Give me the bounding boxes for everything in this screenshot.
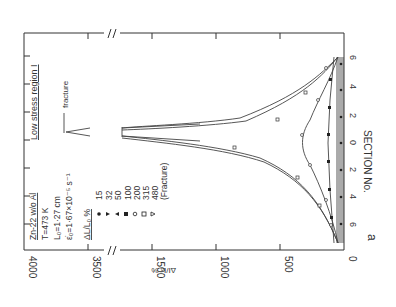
- legend: ΔL/L₀ % 15 32 50 100 200 315 480 (F: [82, 163, 169, 240]
- chart: 4000 3500 1500 1000 500 0 ΔI/I₀ % 6 4 2 …: [0, 0, 396, 307]
- axis-break-bottom: [108, 246, 116, 255]
- gauge-length: L₀=1·27 cm: [52, 196, 62, 240]
- legend-header: ΔL/L₀ %: [82, 209, 92, 240]
- chart-title: Low stress region I: [29, 64, 39, 140]
- section-tick: 2: [348, 167, 358, 172]
- value-axis-label: ΔI/I₀ %: [151, 266, 176, 275]
- legend-label: 15: [94, 190, 104, 200]
- section-tick: 4: [348, 194, 358, 199]
- section-tick: 4: [348, 84, 358, 89]
- series-480-315: [122, 57, 338, 243]
- section-tick: 6: [348, 222, 358, 227]
- series-15-32-50: [337, 57, 343, 243]
- tick-4000: 4000: [27, 256, 38, 279]
- value-tick-labels: 4000 3500 1500 1000 500 0: [27, 256, 358, 279]
- alloy: Zn-22 w/o Al: [28, 193, 38, 240]
- tick-0: 0: [347, 256, 358, 262]
- section-tick: 2: [348, 113, 358, 118]
- section-tick: 6: [348, 55, 358, 60]
- legend-entry-15: 15: [94, 190, 104, 216]
- tick-1000: 1000: [219, 256, 230, 279]
- legend-fracture-note: (Fracture): [159, 163, 169, 200]
- section-axis-label: SECTION No.: [362, 130, 373, 193]
- fracture-annotation: fracture: [61, 80, 70, 108]
- tick-3500: 3500: [91, 256, 102, 279]
- subfigure-label: a: [365, 234, 379, 241]
- conditions: Zn-22 w/o Al T=473 K L₀=1·27 cm ε̇₀=1·67…: [28, 173, 74, 240]
- temperature: T=473 K: [40, 207, 50, 240]
- legend-entry-50: 50: [113, 190, 123, 216]
- tick-500: 500: [283, 256, 294, 273]
- axis-break-top: [108, 29, 116, 38]
- legend-label: 50: [113, 190, 123, 200]
- strain-rate: ε̇₀=1·67×10⁻⁵ s⁻¹: [64, 173, 74, 240]
- section-tick: 0: [348, 140, 358, 145]
- section-tick-labels: 6 4 2 0 2 4 6: [348, 55, 358, 227]
